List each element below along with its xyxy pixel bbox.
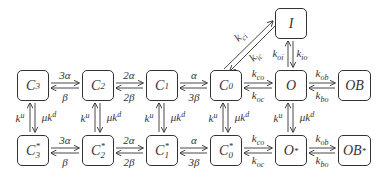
node-label: C <box>219 78 228 94</box>
node-subscript: 0 <box>228 81 233 91</box>
rate-o-i: koi <box>272 48 283 62</box>
node-label: OB <box>345 78 364 94</box>
node-superscript: * <box>362 146 367 156</box>
node-label: I <box>289 16 294 32</box>
state-ob-star: OB * <box>338 135 371 166</box>
rate-c1-c1s-down: μkd <box>171 111 185 124</box>
state-c2-star: C*2 <box>82 135 114 166</box>
rate-c0s-os-forward: kco <box>252 133 264 147</box>
node-subscript: 2 <box>100 151 105 159</box>
rate-c2-c2s-down: μkd <box>107 111 121 124</box>
rate-c1-c0-forward: α <box>191 70 197 81</box>
node-subscript: 3 <box>35 81 40 91</box>
node-label: C <box>219 143 228 159</box>
rate-c2s-c2-up: ku <box>81 112 90 125</box>
state-c1: C1 <box>146 70 178 101</box>
state-c0-star: C*0 <box>210 135 242 166</box>
rate-os-obs-forward: kob <box>316 133 329 147</box>
rate-c3-c2-forward: 3α <box>59 70 70 81</box>
rate-obs-os-back: kbo <box>316 155 329 169</box>
node-label: O <box>286 78 296 94</box>
rate-c0s-c1s-back: 3β <box>189 157 200 168</box>
rate-c1s-c0s-forward: α <box>191 135 197 146</box>
node-label: C <box>155 78 164 94</box>
rate-c3s-c3-up: ku <box>16 112 25 125</box>
rate-ob-o-back: kbo <box>316 90 329 104</box>
rate-i-o: kio <box>296 48 307 62</box>
state-c2: C2 <box>82 70 114 101</box>
node-label: C <box>155 143 164 159</box>
state-i: I <box>275 8 307 39</box>
node-label: O <box>284 143 294 159</box>
node-label: C <box>91 78 100 94</box>
rate-c3-c3s-down: μkd <box>42 111 56 124</box>
rate-c1s-c1-up: ku <box>145 112 154 125</box>
rate-c0-o-forward: kco <box>252 68 264 82</box>
state-o: O <box>275 70 307 101</box>
rate-o-c0-back: koc <box>252 90 264 104</box>
rate-c1-c2-back: 2β <box>124 92 135 103</box>
node-label: C <box>91 143 100 159</box>
node-subscript: 1 <box>164 81 169 91</box>
rate-c0-c1-back: 3β <box>189 92 200 103</box>
state-c3-star: C*3 <box>17 135 49 166</box>
node-subscript: 0 <box>228 151 233 159</box>
rate-o-ob-forward: kob <box>316 68 329 82</box>
state-ob: OB <box>338 70 371 101</box>
rate-o-os-down: μkd <box>300 111 314 124</box>
rate-c3s-c2s-forward: 3α <box>59 135 70 146</box>
rate-c2-c1-forward: 2α <box>123 70 134 81</box>
state-c1-star: C*1 <box>146 135 178 166</box>
rate-c2s-c3s-back: β <box>62 157 67 168</box>
rate-c2-c3-back: β <box>62 92 67 103</box>
node-subscript: 2 <box>100 81 105 91</box>
rate-os-c0s-back: koc <box>252 155 264 169</box>
node-subscript: 1 <box>164 151 169 159</box>
state-c0: C0 <box>210 70 242 101</box>
state-o-star: O* <box>275 135 307 166</box>
rate-c1s-c2s-back: 2β <box>124 157 135 168</box>
rate-c0-c0s-down: μkd <box>235 111 249 124</box>
state-c3: C3 <box>17 70 49 101</box>
node-superscript: * <box>294 146 299 156</box>
rate-c0s-c0-up: ku <box>209 112 218 125</box>
rate-c2s-c1s-forward: 2α <box>123 135 134 146</box>
node-subscript: 3 <box>35 151 40 159</box>
rate-os-o-up: ku <box>274 112 283 125</box>
node-label: OB <box>343 143 362 159</box>
